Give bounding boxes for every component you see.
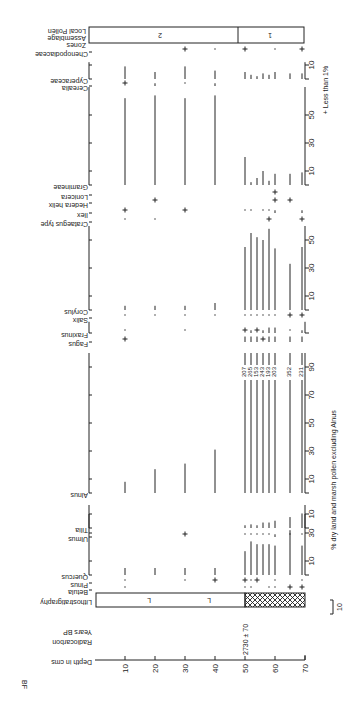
alnus-total-label: 352 (286, 366, 292, 377)
svg-text:30: 30 (307, 138, 316, 147)
svg-text:50: 50 (307, 110, 316, 119)
svg-text:Lonicera: Lonicera (61, 194, 88, 201)
figure-label: BF (21, 680, 28, 689)
svg-text:Pinus: Pinus (70, 582, 88, 589)
lithostratigraphy-label: Lithostratigraphy (40, 598, 92, 606)
svg-text:2: 2 (158, 32, 162, 39)
depth-axis-label: Depth in cms (51, 658, 92, 666)
svg-text:10: 10 (307, 474, 316, 483)
taxon-alnus: Alnus1030507090 (70, 353, 316, 499)
svg-text:70: 70 (307, 390, 316, 399)
taxon-cyperaceae: Cyperaceae10 (50, 60, 316, 85)
svg-text:10: 10 (121, 663, 130, 672)
svg-text:Fraxinus: Fraxinus (61, 332, 88, 339)
svg-text:Zones: Zones (66, 42, 86, 49)
svg-text:Cyperaceae: Cyperaceae (50, 77, 88, 85)
taxon-corylus: Corylus103050 (64, 226, 316, 316)
svg-text:10: 10 (307, 166, 316, 175)
alnus-total-label: 231 (298, 366, 304, 377)
taxon-salix: Salix (72, 313, 304, 325)
taxon-fraxinus: Fraxinus (61, 322, 309, 339)
svg-text:Assemblage: Assemblage (47, 34, 86, 42)
svg-text:10: 10 (307, 60, 316, 69)
svg-text:Ulmus: Ulmus (68, 536, 88, 543)
depth-axis: 10203040506070 Depth in cms (51, 655, 310, 673)
alnus-total-label: 203 (271, 366, 277, 377)
svg-text:10: 10 (307, 556, 316, 565)
radiocarbon-date: 2730 ± 70 (242, 624, 249, 655)
svg-text:Quercus: Quercus (61, 573, 88, 581)
svg-text:Cerealia: Cerealia (62, 85, 88, 92)
svg-text:30: 30 (307, 263, 316, 272)
svg-text:Gramineae: Gramineae (53, 184, 88, 191)
svg-text:Betula: Betula (68, 589, 88, 596)
svg-text:Chenopodiaceae: Chenopodiaceae (35, 50, 88, 58)
svg-text:L: L (147, 597, 151, 604)
taxon-ulmus: Ulmus (68, 532, 303, 544)
svg-text:30: 30 (181, 663, 190, 672)
pollen-diagram: BF 10203040506070 Depth in cms Radiocarb… (0, 0, 364, 712)
svg-text:Alnus: Alnus (70, 492, 88, 499)
svg-text:Years BP: Years BP (63, 629, 92, 636)
scale-bar: 10 (330, 600, 343, 614)
svg-text:Salix: Salix (72, 317, 88, 324)
svg-text:40: 40 (211, 663, 220, 672)
legend-plus: + Less than 1% (322, 66, 329, 114)
svg-text:50: 50 (307, 418, 316, 427)
svg-text:30: 30 (307, 446, 316, 455)
svg-text:Fagus: Fagus (68, 340, 88, 348)
taxon-fagus: Fagus (68, 337, 302, 349)
taxa-panels: BetulaPinusQuercus1030UlmusTilia10Alnus1… (35, 47, 316, 597)
radiocarbon: Radiocarbon Years BP 2730 ± 70 (52, 624, 249, 655)
svg-text:L: L (207, 597, 211, 604)
svg-text:Ilex: Ilex (77, 212, 88, 219)
taxon-gramineae: Gramineae103050 (53, 87, 316, 191)
taxon-lonicera: Lonicera (61, 190, 277, 202)
svg-text:90: 90 (307, 362, 316, 371)
svg-text:1: 1 (268, 32, 272, 39)
svg-text:60: 60 (271, 663, 280, 672)
svg-text:Local Pollen: Local Pollen (48, 28, 86, 35)
svg-text:Crataegus type: Crataegus type (40, 220, 88, 228)
taxon-pinus: Pinus (70, 578, 303, 590)
zones: 2 1 Local Pollen Assemblage Zones (47, 27, 304, 49)
svg-text:10: 10 (307, 291, 316, 300)
svg-text:Hedera helix: Hedera helix (48, 202, 88, 209)
svg-text:30: 30 (307, 528, 316, 537)
taxon-quercus: Quercus1030 (61, 505, 316, 581)
svg-text:Radiocarbon: Radiocarbon (52, 639, 92, 646)
svg-text:10: 10 (307, 509, 316, 518)
svg-text:50: 50 (241, 663, 250, 672)
svg-text:50: 50 (307, 235, 316, 244)
taxon-ilex: Ilex (77, 208, 302, 220)
svg-text:10: 10 (336, 603, 343, 611)
x-axis-title: % dry land and marsh pollen excluding Al… (330, 410, 338, 550)
svg-text:70: 70 (301, 663, 310, 672)
svg-text:20: 20 (151, 663, 160, 672)
svg-text:Tilia: Tilia (75, 527, 88, 534)
svg-text:Corylus: Corylus (64, 308, 88, 316)
taxon-tilia: Tilia10 (75, 509, 316, 534)
